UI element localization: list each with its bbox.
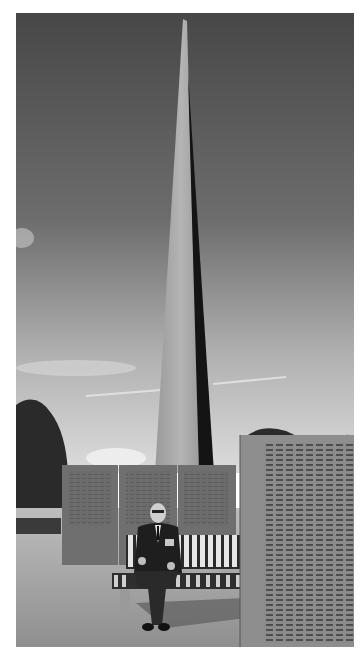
cloud xyxy=(16,360,136,376)
memorial-photograph xyxy=(16,13,354,647)
engraved-names xyxy=(264,443,354,643)
engraved-names xyxy=(68,471,112,525)
photo-illustration xyxy=(16,13,354,647)
engraved-names xyxy=(184,471,228,525)
ground-shadow xyxy=(16,518,61,534)
